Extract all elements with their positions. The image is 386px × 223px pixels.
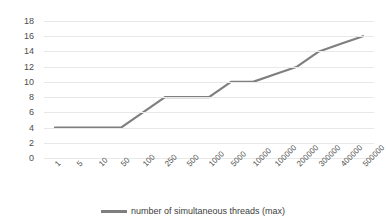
gridline-y-14 [44,51,374,52]
gridline-y-16 [44,36,374,37]
y-tick-label-2: 2 [29,138,34,147]
legend-line-swatch [101,210,127,213]
line-chart: 024681012141618 151050100250500100050001… [0,0,386,223]
plot-area [44,21,374,158]
chart-legend: number of simultaneous threads (max) [0,203,386,219]
y-tick-label-12: 12 [24,62,34,71]
x-tick-label-10: 10 [97,156,110,169]
legend-label: number of simultaneous threads (max) [131,206,285,216]
gridline-y-18 [44,21,374,22]
y-tick-label-4: 4 [29,123,34,132]
gridline-y-4 [44,128,374,129]
y-tick-label-18: 18 [24,17,34,26]
gridline-y-10 [44,82,374,83]
y-tick-label-14: 14 [24,47,34,56]
y-tick-label-16: 16 [24,32,34,41]
series-line-group [44,21,374,158]
y-tick-label-10: 10 [24,77,34,86]
gridline-y-8 [44,97,374,98]
y-tick-label-8: 8 [29,93,34,102]
y-axis: 024681012141618 [0,0,40,179]
x-axis: 1510501002505001000500010000100000200000… [0,158,386,202]
gridline-y-12 [44,67,374,68]
gridline-y-6 [44,112,374,113]
gridline-y-2 [44,143,374,144]
x-tick-label-5: 5 [75,159,85,169]
x-tick-label-50: 50 [119,156,132,169]
y-tick-label-6: 6 [29,108,34,117]
x-tick-label-1: 1 [53,159,63,169]
